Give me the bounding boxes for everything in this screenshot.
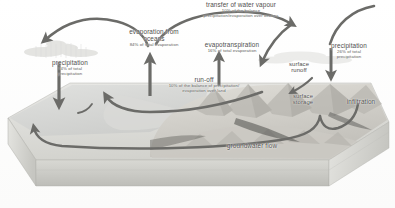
water-cycle-diagram: precipitation 74% of total precipitation… (0, 0, 395, 208)
terrain-block (8, 83, 389, 186)
block-front-face (36, 160, 329, 186)
diagram-artwork (0, 0, 395, 208)
